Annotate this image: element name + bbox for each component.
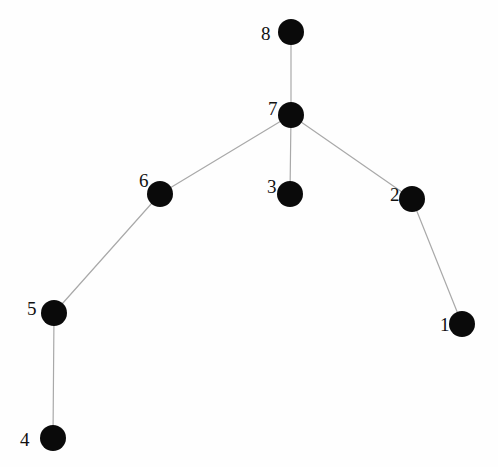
graph-node-4 xyxy=(40,425,66,451)
node-label-6: 6 xyxy=(139,171,149,190)
graph-node-1 xyxy=(449,311,475,337)
graph-node-6 xyxy=(147,181,173,207)
graph-node-2 xyxy=(399,186,425,212)
node-label-3: 3 xyxy=(267,177,277,196)
graph-edge-6-5 xyxy=(54,194,160,313)
node-label-5: 5 xyxy=(27,299,37,318)
graph-node-5 xyxy=(41,300,67,326)
graph-node-3 xyxy=(277,181,303,207)
graph-figure: 12345678 xyxy=(0,0,498,467)
node-layer xyxy=(40,19,475,451)
graph-canvas xyxy=(0,0,498,467)
node-label-7: 7 xyxy=(268,99,278,118)
edge-layer xyxy=(53,32,462,438)
graph-edge-2-1 xyxy=(412,199,462,324)
graph-node-8 xyxy=(278,19,304,45)
graph-edge-5-4 xyxy=(53,313,54,438)
node-label-4: 4 xyxy=(20,430,30,449)
node-label-2: 2 xyxy=(390,185,400,204)
node-label-1: 1 xyxy=(440,315,450,334)
node-label-8: 8 xyxy=(261,24,271,43)
graph-node-7 xyxy=(278,102,304,128)
